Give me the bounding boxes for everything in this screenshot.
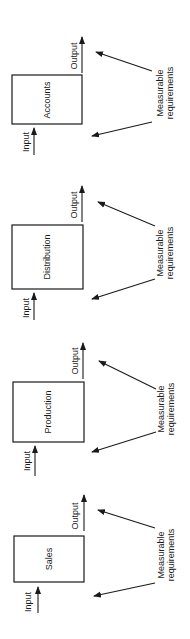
accounts-req-line1: Measurable (155, 69, 165, 116)
production-req-line2: requirements (166, 382, 176, 435)
production-output-label: Output (70, 347, 80, 375)
distribution-input-label: Input (21, 297, 31, 318)
production-label: Production (43, 390, 53, 433)
requirement-arrow-icon (98, 202, 155, 226)
accounts-input-label: Input (21, 131, 31, 152)
stage-sales: Sales Input Output Measurable requiremen… (14, 495, 176, 613)
requirement-arrow-icon (99, 361, 156, 389)
requirement-arrow-icon (94, 583, 155, 596)
production-req-line1: Measurable (156, 385, 166, 432)
accounts-req-line2: requirements (165, 66, 175, 119)
stage-distribution: Distribution Input Output Measurable req… (12, 186, 175, 320)
requirement-arrow-icon (98, 510, 155, 528)
sales-req-line1: Measurable (156, 531, 166, 578)
distribution-req-line2: requirements (165, 226, 175, 279)
distribution-output-label: Output (69, 191, 79, 219)
requirement-arrow-icon (92, 432, 156, 452)
requirement-arrow-icon (92, 122, 152, 136)
sales-req-line2: requirements (166, 528, 176, 581)
accounts-label: Accounts (42, 81, 52, 119)
accounts-output-label: Output (69, 42, 79, 70)
sales-output-label: Output (70, 502, 80, 530)
requirement-arrow-icon (92, 279, 155, 299)
production-input-label: Input (22, 450, 32, 471)
process-diagram: Accounts Input Output Measurable require… (0, 0, 190, 639)
distribution-req-line1: Measurable (155, 229, 165, 276)
stage-production: Production Input Output Measurable requi… (13, 343, 176, 476)
distribution-label: Distribution (42, 234, 52, 279)
stage-accounts: Accounts Input Output Measurable require… (12, 37, 175, 155)
requirement-arrow-icon (96, 52, 152, 71)
sales-label: Sales (44, 547, 54, 570)
sales-input-label: Input (23, 591, 33, 612)
